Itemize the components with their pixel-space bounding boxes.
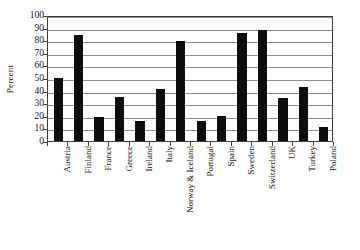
y-axis-title: Percent	[5, 51, 15, 107]
bar[interactable]	[74, 35, 83, 141]
x-axis-label-holder: Turkey	[294, 146, 310, 242]
bar[interactable]	[156, 89, 165, 141]
y-axis-tick-label: 50	[22, 74, 44, 84]
bar[interactable]	[258, 30, 267, 141]
x-axis-label-holder: UK	[274, 146, 290, 242]
x-axis-label-holder: Sweden	[233, 146, 249, 242]
bar-slot	[293, 17, 313, 141]
bar-slot	[232, 17, 252, 141]
bar[interactable]	[176, 41, 185, 141]
y-axis-tick-mark	[43, 29, 47, 30]
bar-slot	[150, 17, 170, 141]
x-axis-label-holder: France	[90, 146, 106, 242]
x-axis-label-holder: Poland	[315, 146, 331, 242]
bar-slot	[130, 17, 150, 141]
y-axis-tick-label: 100	[22, 11, 44, 21]
bar[interactable]	[54, 78, 63, 141]
y-axis-tick-mark	[43, 104, 47, 105]
bar[interactable]	[278, 98, 287, 141]
y-axis-tick-label: 20	[22, 112, 44, 122]
bar[interactable]	[115, 97, 124, 141]
bar-slot	[89, 17, 109, 141]
x-axis-category-label: Poland	[328, 146, 338, 171]
x-axis-label-holder: Austria	[49, 146, 65, 242]
y-axis-tick-label: 60	[22, 62, 44, 72]
y-axis-tick-label: 0	[22, 137, 44, 147]
y-axis-tick-labels: 1009080706050403020100	[22, 16, 44, 142]
plot-area	[47, 16, 333, 142]
y-axis-tick-label: 90	[22, 24, 44, 34]
bar-slot	[314, 17, 334, 141]
bar-slot	[211, 17, 231, 141]
bar-slot	[68, 17, 88, 141]
bar[interactable]	[237, 33, 246, 141]
bar[interactable]	[197, 121, 206, 141]
bar[interactable]	[299, 87, 308, 141]
y-axis-tick-label: 80	[22, 36, 44, 46]
y-axis-tick-label: 70	[22, 49, 44, 59]
x-axis-label-holder: Switzerland	[254, 146, 270, 242]
x-axis-label-holder: Finland	[70, 146, 86, 242]
y-axis-tick-label: 10	[22, 125, 44, 135]
x-axis-label-holder: Greece	[111, 146, 127, 242]
bar-slot	[171, 17, 191, 141]
x-axis-label-holder: Italy	[151, 146, 167, 242]
bar-chart: Percent 1009080706050403020100 AustriaFi…	[0, 0, 360, 250]
y-axis-tick-mark	[43, 54, 47, 55]
x-axis-label-holder: Norway & Iceland	[172, 146, 188, 242]
bar-slot	[252, 17, 272, 141]
bar[interactable]	[135, 121, 144, 141]
bar[interactable]	[319, 127, 328, 141]
x-axis-label-holder: Portugal	[192, 146, 208, 242]
y-axis-tick-mark	[43, 16, 47, 17]
bar[interactable]	[217, 116, 226, 141]
y-axis-tick-mark	[43, 41, 47, 42]
bar-slot	[191, 17, 211, 141]
x-axis-label-holder: Spain	[213, 146, 229, 242]
x-axis-category-labels: AustriaFinlandFranceGreeceIrelandItalyNo…	[47, 146, 333, 246]
bar-slot	[48, 17, 68, 141]
y-axis-tick-mark	[43, 129, 47, 130]
y-axis-tick-mark	[43, 66, 47, 67]
y-axis-tick-label: 30	[22, 99, 44, 109]
bar-slot	[109, 17, 129, 141]
bar-slot	[273, 17, 293, 141]
y-axis-tick-mark	[43, 79, 47, 80]
bar[interactable]	[94, 117, 103, 141]
y-axis-tick-label: 40	[22, 87, 44, 97]
y-axis-tick-mark	[43, 92, 47, 93]
bars-layer	[48, 17, 332, 141]
x-axis-label-holder: Ireland	[131, 146, 147, 242]
y-axis-tick-mark	[43, 117, 47, 118]
